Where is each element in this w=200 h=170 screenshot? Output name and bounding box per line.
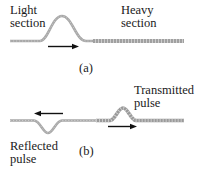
panel-b-transmitted-arrow-right-icon: [108, 124, 137, 129]
wave-reflection-diagram: Light section Heavy section (a) Transmit…: [0, 0, 200, 170]
heavy-section-rope: [93, 39, 184, 43]
light-section-rope-reflected: [10, 121, 96, 134]
light-label-line2: section: [10, 17, 45, 30]
panel-a-caption: (a): [79, 62, 93, 75]
light-section-label: Light section: [10, 4, 45, 30]
transmitted-pulse-label: Transmitted pulse: [134, 84, 194, 110]
heavy-section-label: Heavy section: [121, 4, 156, 30]
panel-b-rope: [10, 108, 184, 133]
panel-a-arrow-right-icon: [48, 44, 79, 49]
reflected-pulse-label: Reflected pulse: [10, 140, 58, 166]
panel-b-caption: (b): [79, 145, 94, 158]
reflected-label-line2: pulse: [10, 153, 58, 166]
transmitted-label-line2: pulse: [134, 97, 194, 110]
heavy-label-line2: section: [121, 17, 156, 30]
panel-b-reflected-arrow-left-icon: [34, 111, 63, 116]
